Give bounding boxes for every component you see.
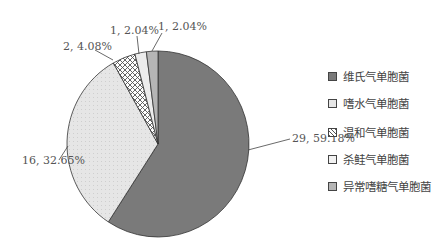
legend-swatch-icon <box>328 99 337 108</box>
legend-label: 杀鲑气单胞菌 <box>343 151 409 167</box>
leader-line <box>137 36 139 54</box>
leader-line <box>248 139 290 150</box>
legend-label: 维氏气单胞菌 <box>343 68 409 84</box>
legend-swatch-icon <box>328 155 337 164</box>
legend-swatch-icon <box>328 72 337 81</box>
data-label: 2, 4.08% <box>63 40 112 53</box>
legend-swatch-icon <box>328 182 337 191</box>
legend-label: 温和气单胞菌 <box>343 124 409 140</box>
legend-item-vibrio-veronii: 维氏气单胞菌 <box>328 68 409 84</box>
legend-item-allosaccharophila: 异常嗜糖气单胞菌 <box>328 178 431 194</box>
legend-item-salmonicida: 杀鲑气单胞菌 <box>328 151 409 167</box>
data-label: 1, 2.04% <box>110 24 159 37</box>
legend-item-sobria: 温和气单胞菌 <box>328 124 409 140</box>
pie-slices <box>67 51 249 237</box>
legend-label: 嗜水气单胞菌 <box>343 95 409 111</box>
data-label: 16, 32.65% <box>22 154 85 167</box>
legend-label: 异常嗜糖气单胞菌 <box>343 178 431 194</box>
data-label: 1, 2.04% <box>158 20 207 33</box>
legend-swatch-icon <box>328 128 337 137</box>
legend-item-hydrophila: 嗜水气单胞菌 <box>328 95 409 111</box>
